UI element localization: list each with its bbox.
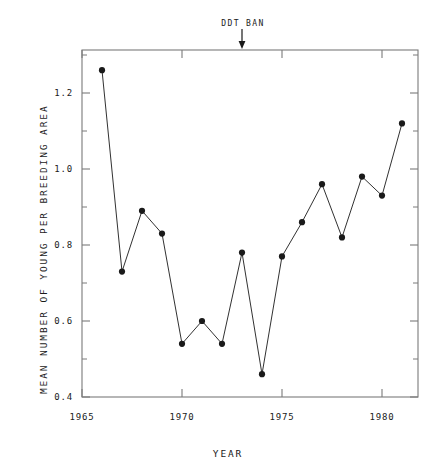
data-point xyxy=(99,67,105,73)
data-point xyxy=(379,193,385,199)
data-point xyxy=(179,341,185,347)
data-point xyxy=(279,253,285,259)
ddt-ban-arrow xyxy=(239,29,246,49)
data-point xyxy=(259,371,265,377)
data-point xyxy=(299,219,305,225)
data-line xyxy=(102,70,402,374)
data-point xyxy=(239,250,245,256)
data-point xyxy=(399,120,405,126)
data-point xyxy=(359,174,365,180)
chart-figure: DDT BAN MEAN NUMBER OF YOUNG PER BREEDIN… xyxy=(0,0,446,476)
data-point xyxy=(319,181,325,187)
data-points xyxy=(99,67,405,377)
axis-ticks xyxy=(82,50,418,397)
data-point xyxy=(119,269,125,275)
axes-frame xyxy=(82,50,418,397)
data-point xyxy=(199,318,205,324)
plot-area xyxy=(0,0,446,476)
data-point xyxy=(139,208,145,214)
data-point xyxy=(219,341,225,347)
data-point xyxy=(159,231,165,237)
data-point xyxy=(339,234,345,240)
